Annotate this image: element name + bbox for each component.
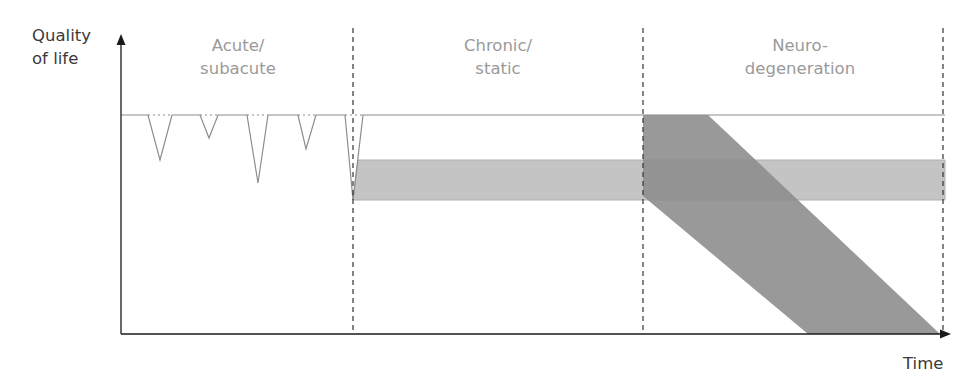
y-axis-label: Quality of life xyxy=(32,24,91,70)
y-axis-label-line2: of life xyxy=(32,47,91,70)
x-axis-label: Time xyxy=(903,352,943,375)
phase-label-line: subacute xyxy=(183,57,293,80)
phase-label-line: Neuro- xyxy=(730,34,870,57)
y-axis-label-line1: Quality xyxy=(32,24,91,47)
x-axis-label-text: Time xyxy=(903,352,943,375)
phase-label-chronic: Chronic/ static xyxy=(443,34,553,80)
phase-label-neurodegeneration: Neuro- degeneration xyxy=(730,34,870,80)
y-axis-arrow-icon xyxy=(117,34,126,45)
phase-label-line: degeneration xyxy=(730,57,870,80)
neurodegeneration-band xyxy=(643,115,940,334)
phase-label-acute: Acute/ subacute xyxy=(183,34,293,80)
phase-label-line: static xyxy=(443,57,553,80)
phase-label-line: Chronic/ xyxy=(443,34,553,57)
quality-of-life-diagram: Quality of life Time Acute/ subacute Chr… xyxy=(0,0,975,384)
phase-label-line: Acute/ xyxy=(183,34,293,57)
x-axis-arrow-icon xyxy=(940,330,951,339)
